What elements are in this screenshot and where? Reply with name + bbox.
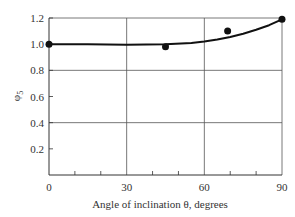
y-axis-title: φ5 <box>10 91 25 101</box>
y-axis-title-sub: 5 <box>16 91 25 95</box>
fitted-curve <box>49 19 282 45</box>
x-tick-label: 0 <box>46 181 52 193</box>
grid-lines <box>49 18 282 175</box>
ticks: 0.20.40.60.81.01.20306090 <box>30 12 288 193</box>
x-tick-label: 60 <box>199 181 211 193</box>
y-tick-label: 0.6 <box>30 91 44 103</box>
x-tick-label: 30 <box>121 181 133 193</box>
x-axis-title: Angle of inclination θ, degrees <box>92 198 228 210</box>
chart: 0.20.40.60.81.01.20306090 Angle of incli… <box>0 0 295 217</box>
svg-text:φ5: φ5 <box>10 91 25 101</box>
y-tick-label: 0.2 <box>30 143 44 155</box>
data-point <box>46 41 53 48</box>
data-point <box>224 28 231 35</box>
data-point <box>162 43 169 50</box>
y-tick-label: 0.8 <box>30 64 44 76</box>
axes <box>49 18 282 175</box>
data-series <box>46 16 286 50</box>
y-tick-label: 0.4 <box>30 117 44 129</box>
y-tick-label: 1.0 <box>30 38 44 50</box>
data-point <box>279 16 286 23</box>
y-tick-label: 1.2 <box>30 12 44 24</box>
x-tick-label: 90 <box>277 181 289 193</box>
